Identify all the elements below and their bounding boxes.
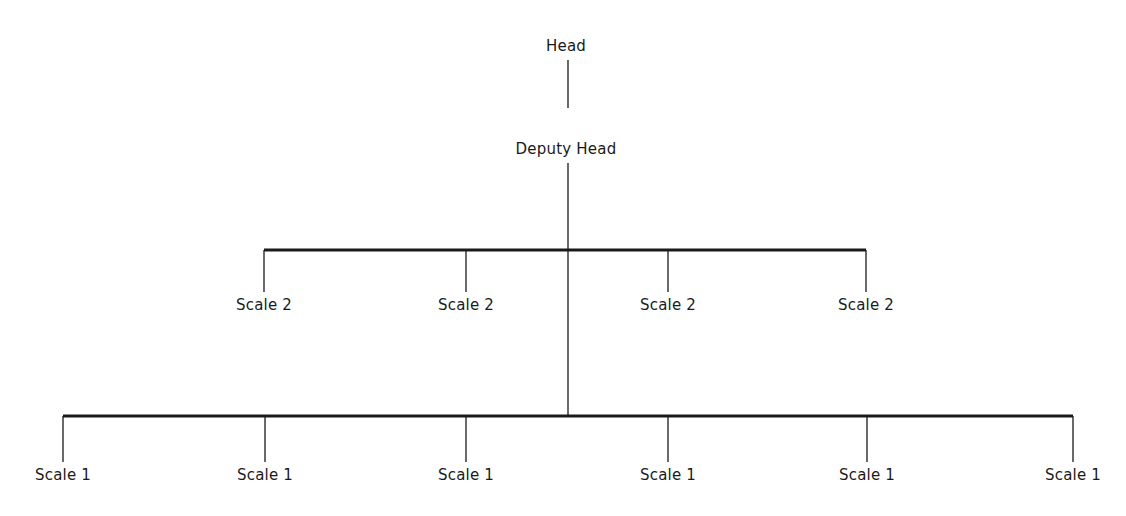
node-scale-1: Scale 1 — [839, 466, 895, 484]
node-scale-2: Scale 2 — [640, 296, 696, 314]
node-scale-1: Scale 1 — [35, 466, 91, 484]
org-chart-lines — [0, 0, 1126, 516]
node-scale-1: Scale 1 — [1045, 466, 1101, 484]
node-deputy-head: Deputy Head — [516, 140, 617, 158]
node-scale-2: Scale 2 — [838, 296, 894, 314]
node-head: Head — [546, 37, 586, 55]
node-scale-1: Scale 1 — [438, 466, 494, 484]
node-scale-2: Scale 2 — [236, 296, 292, 314]
node-scale-1: Scale 1 — [237, 466, 293, 484]
node-scale-1: Scale 1 — [640, 466, 696, 484]
node-scale-2: Scale 2 — [438, 296, 494, 314]
